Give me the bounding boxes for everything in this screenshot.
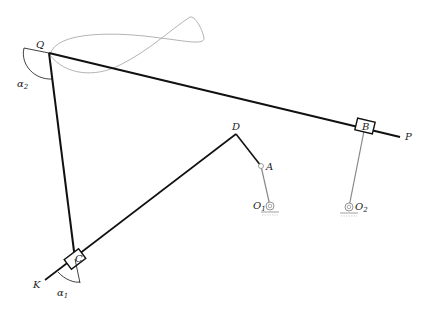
- label-P: P: [404, 131, 412, 142]
- link-QC: [49, 53, 75, 259]
- link-QP: [49, 53, 400, 137]
- label-O1: O1: [253, 200, 266, 213]
- label-B: B: [361, 121, 369, 132]
- link-AO1: [261, 166, 270, 206]
- link-DA: [236, 134, 261, 166]
- label-C: C: [75, 253, 83, 264]
- joint-A: [259, 164, 264, 169]
- label-alpha2: α2: [17, 78, 29, 91]
- alpha1-arc: [58, 272, 80, 282]
- label-D: D: [231, 121, 240, 132]
- label-A: A: [265, 161, 273, 172]
- label-K: K: [32, 279, 41, 290]
- label-Q: Q: [36, 39, 44, 50]
- coupler-curve: [50, 17, 204, 73]
- label-O2: O2: [355, 201, 368, 214]
- label-alpha1: α1: [57, 287, 68, 300]
- mechanism-diagram: Q P B D A C K O1 O2 α2 α1: [0, 0, 432, 312]
- link-BO2: [349, 126, 365, 207]
